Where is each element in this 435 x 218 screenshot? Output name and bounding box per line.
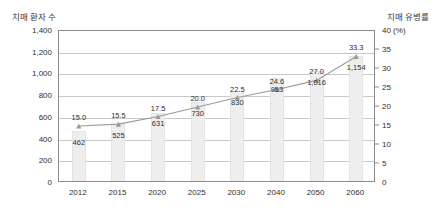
right-axis-tick: 30 — [382, 64, 391, 73]
left-axis-tick: 1,200 — [0, 47, 52, 56]
left-axis-tick: 600 — [0, 112, 52, 121]
right-axis-tick: 5 — [382, 159, 386, 168]
x-axis-tick: 2025 — [188, 188, 206, 197]
left-axis-tick: 800 — [0, 91, 52, 100]
gridline — [59, 53, 374, 54]
right-axis-tickmark — [375, 125, 379, 126]
bar-value-label: 953 — [271, 85, 284, 94]
x-axis-tick: 2015 — [109, 188, 127, 197]
right-axis-tick: 20 — [382, 102, 391, 111]
left-axis-tick: 400 — [0, 134, 52, 143]
x-axis-tick: 2050 — [307, 188, 325, 197]
x-axis-tick: 2040 — [267, 188, 285, 197]
right-axis-title: 치매 유병률 — [387, 10, 429, 22]
line-value-label: 15.5 — [111, 111, 126, 120]
x-axis-tick: 2020 — [148, 188, 166, 197]
bar-value-label: 631 — [152, 119, 165, 128]
right-axis-tick: 25 — [382, 83, 391, 92]
bar-value-label: 462 — [73, 138, 86, 147]
right-axis-tick: 40 (%) — [382, 26, 406, 35]
line-value-label: 20.0 — [190, 94, 205, 103]
gridline — [59, 161, 374, 162]
bar-value-label: 830 — [231, 98, 244, 107]
bar-value-label: 525 — [112, 131, 125, 140]
bar — [349, 56, 363, 181]
left-axis-tick: 1,400 — [0, 26, 52, 35]
right-axis-tickmark — [375, 49, 379, 50]
right-axis-tick: 15 — [382, 121, 391, 130]
gridline — [59, 140, 374, 141]
gridline — [59, 118, 374, 119]
chart-container: 치매 환자 수 치매 유병률 02004006008001,0001,2001,… — [0, 0, 435, 218]
x-axis-tick: 2060 — [346, 188, 364, 197]
right-axis-tickmark — [375, 106, 379, 107]
bar — [310, 71, 324, 181]
bar-value-label: 1,016 — [307, 78, 326, 87]
right-axis-tickmark — [375, 68, 379, 69]
line-value-label: 33.3 — [349, 43, 364, 52]
right-axis-tick: 35 — [382, 45, 391, 54]
line-value-label: 22.5 — [230, 85, 245, 94]
left-axis-title: 치매 환자 수 — [12, 10, 56, 22]
left-axis-tick: 1,000 — [0, 69, 52, 78]
line-value-label: 17.5 — [151, 104, 166, 113]
left-axis-tick: 200 — [0, 156, 52, 165]
right-axis-tickmark — [375, 163, 379, 164]
bar-value-label: 1,154 — [347, 63, 366, 72]
right-axis-tick: 10 — [382, 140, 391, 149]
gridline — [59, 96, 374, 97]
line-series — [59, 31, 376, 183]
plot-area: 4625256317308309531,0161,154 15.015.517.… — [58, 30, 375, 182]
left-axis-tick: 0 — [0, 178, 52, 187]
line-value-label: 15.0 — [72, 113, 87, 122]
right-axis-tick: 0 — [382, 178, 386, 187]
right-axis-tickmark — [375, 87, 379, 88]
line-marker — [76, 123, 81, 128]
line-value-label: 24.6 — [270, 77, 285, 86]
x-axis-tick: 2030 — [227, 188, 245, 197]
x-axis-tick: 2012 — [69, 188, 87, 197]
gridline — [59, 74, 374, 75]
bar-value-label: 730 — [191, 109, 204, 118]
right-axis-tickmark — [375, 144, 379, 145]
line-value-label: 27.0 — [309, 67, 324, 76]
